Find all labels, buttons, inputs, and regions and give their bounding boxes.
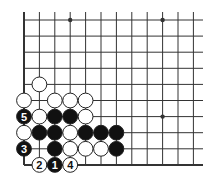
black-stone-1: 1 bbox=[47, 158, 62, 173]
move-number: 3 bbox=[21, 143, 27, 155]
star-point bbox=[160, 18, 164, 22]
black-stone bbox=[47, 125, 62, 140]
white-stone bbox=[63, 141, 78, 156]
white-stone-4: 4 bbox=[63, 158, 78, 173]
go-board-diagram: 53214 bbox=[0, 0, 215, 184]
black-stone bbox=[47, 141, 62, 156]
move-number: 2 bbox=[36, 159, 42, 171]
white-stone bbox=[78, 93, 93, 108]
black-stone bbox=[78, 125, 93, 140]
black-stone bbox=[94, 125, 109, 140]
black-stone-5: 5 bbox=[17, 109, 32, 124]
black-stone bbox=[63, 109, 78, 124]
white-stone bbox=[78, 109, 93, 124]
white-stone bbox=[17, 93, 32, 108]
black-stone bbox=[109, 125, 124, 140]
white-stone bbox=[17, 125, 32, 140]
white-stone bbox=[63, 125, 78, 140]
white-stone bbox=[47, 93, 62, 108]
move-number: 5 bbox=[21, 111, 27, 123]
black-stone bbox=[47, 109, 62, 124]
white-stone-2: 2 bbox=[32, 158, 47, 173]
white-stone bbox=[32, 109, 47, 124]
black-stone bbox=[109, 141, 124, 156]
move-number: 1 bbox=[52, 159, 58, 171]
white-stone bbox=[63, 93, 78, 108]
black-stone-3: 3 bbox=[17, 141, 32, 156]
star-point bbox=[160, 114, 164, 118]
black-stone bbox=[32, 125, 47, 140]
white-stone bbox=[94, 141, 109, 156]
move-number: 4 bbox=[67, 159, 74, 171]
white-stone bbox=[32, 77, 47, 92]
white-stone bbox=[78, 141, 93, 156]
star-point bbox=[68, 18, 72, 22]
